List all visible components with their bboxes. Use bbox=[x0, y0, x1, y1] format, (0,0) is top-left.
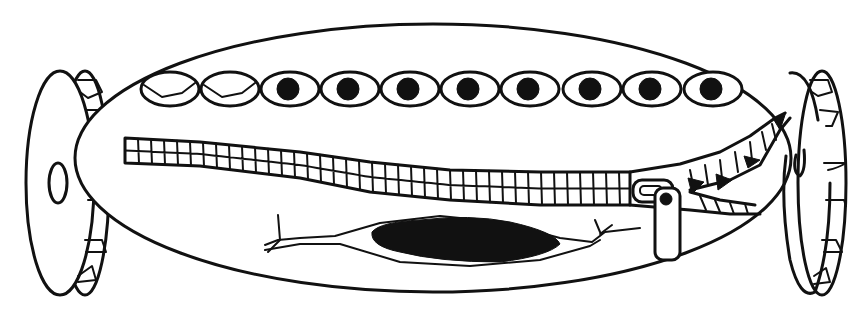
closed-eye bbox=[141, 72, 199, 106]
pupil-icon bbox=[397, 78, 419, 100]
open-eye bbox=[441, 72, 499, 106]
open-eye bbox=[623, 72, 681, 106]
open-eye bbox=[501, 72, 559, 106]
diagram-canvas bbox=[0, 0, 866, 313]
pupil-icon bbox=[579, 78, 601, 100]
open-eye bbox=[684, 72, 742, 106]
open-eye bbox=[381, 72, 439, 106]
pupil-icon bbox=[639, 78, 661, 100]
pupil-icon bbox=[277, 78, 299, 100]
open-eye bbox=[321, 72, 379, 106]
zipper-scroll-illustration bbox=[0, 0, 866, 313]
open-eye bbox=[261, 72, 319, 106]
pupil-icon bbox=[517, 78, 539, 100]
closed-eye bbox=[201, 72, 259, 106]
pupil-icon bbox=[457, 78, 479, 100]
right-roller bbox=[784, 71, 846, 295]
pupil-icon bbox=[700, 78, 722, 100]
pupil-icon bbox=[337, 78, 359, 100]
right-roller-disc bbox=[784, 73, 830, 294]
open-eye bbox=[563, 72, 621, 106]
pull-tab-rivet bbox=[660, 193, 672, 205]
